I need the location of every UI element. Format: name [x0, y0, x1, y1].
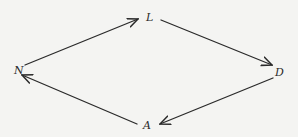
cycle-diagram: N L D A: [0, 0, 298, 137]
edge-l-to-d: [161, 20, 272, 65]
node-l: L: [145, 11, 153, 24]
edge-d-to-a: [160, 78, 273, 124]
edge-a-to-n: [22, 75, 137, 124]
node-n: N: [13, 64, 24, 77]
diagram-svg: N L D A: [0, 0, 298, 137]
node-d: D: [274, 66, 284, 79]
edge-n-to-l: [25, 19, 138, 65]
node-a: A: [142, 119, 151, 132]
